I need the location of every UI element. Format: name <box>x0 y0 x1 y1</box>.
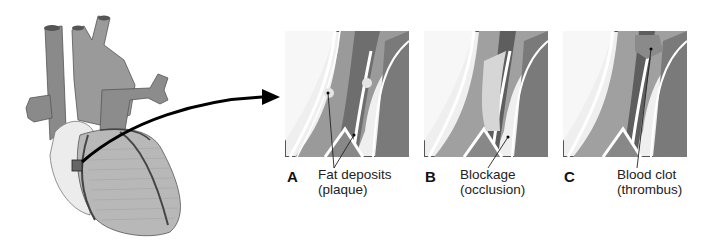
panel-a-caption: Fat deposits (plaque) <box>318 167 392 197</box>
caption-line-2: (plaque) <box>318 182 392 197</box>
caption-line-1: Blockage <box>460 167 525 182</box>
panel-a-artery-plaque <box>285 31 409 157</box>
caption-line-1: Blood clot <box>617 167 682 182</box>
panel-b-artery-occlusion <box>424 31 548 157</box>
caption-line-2: (thrombus) <box>617 182 682 197</box>
panel-a-letter: A <box>287 168 298 185</box>
panel-b-letter: B <box>425 168 436 185</box>
panel-c-letter: C <box>564 168 575 185</box>
panel-c-artery-thrombus <box>563 31 687 157</box>
caption-line-1: Fat deposits <box>318 167 392 182</box>
panel-b-caption: Blockage (occlusion) <box>460 167 525 197</box>
panel-c-caption: Blood clot (thrombus) <box>617 167 682 197</box>
caption-line-2: (occlusion) <box>460 182 525 197</box>
